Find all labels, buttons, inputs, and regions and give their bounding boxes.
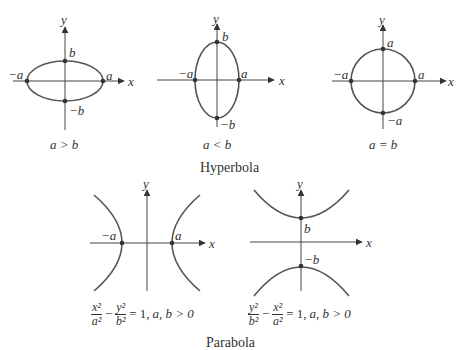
minus-sign: − — [262, 306, 269, 322]
y-axis-label: y — [143, 177, 149, 190]
hyperbola-vertical — [250, 190, 362, 296]
fraction-numerator: y² — [115, 301, 126, 315]
point-label-b: b — [222, 30, 229, 43]
point-label-a: a — [175, 229, 182, 242]
x-axis-label: x — [128, 75, 134, 88]
point-label-a: a — [106, 69, 113, 82]
point-label-a-top: a — [387, 36, 394, 49]
fraction-numerator: y² — [248, 301, 259, 315]
point-label-neg-a: −a — [178, 67, 193, 80]
ellipse-caption: a < b — [203, 138, 231, 151]
point-label-neg-a: −a — [101, 229, 116, 242]
section-title-parabola: Parabola — [206, 336, 255, 350]
point-label-b: b — [69, 46, 76, 59]
ellipse-a-lt-b — [157, 24, 274, 127]
point-label-neg-b: −b — [69, 104, 84, 117]
fraction-numerator: x² — [272, 301, 283, 315]
fraction-denominator: a² — [92, 315, 102, 328]
point-label-neg-b: −b — [304, 253, 319, 266]
y-axis-label: y — [379, 13, 385, 26]
point-label-neg-a: −a — [8, 68, 23, 81]
hyperbola-equation-vertical: y²b² − x²a² = 1, a, b > 0 — [248, 301, 351, 327]
point-label-a: a — [241, 67, 248, 80]
x-axis-label: x — [279, 74, 285, 87]
fraction-denominator: a² — [273, 315, 283, 328]
x-axis-label: x — [366, 236, 372, 249]
point-label-neg-a: −a — [333, 68, 348, 81]
condition: a, b > 0 — [153, 306, 194, 322]
point-label-neg-b: −b — [220, 118, 235, 131]
condition: a, b > 0 — [310, 306, 351, 322]
point-label-b: b — [304, 222, 311, 235]
fraction-denominator: b² — [116, 315, 126, 328]
section-title-hyperbola: Hyperbola — [200, 161, 259, 175]
hyperbola-equation-horizontal: x²a² − y²b² = 1, a, b > 0 — [91, 301, 194, 327]
equals-one: = 1, — [286, 306, 306, 322]
y-axis-label: y — [213, 12, 219, 25]
point-label-neg-a-bottom: −a — [387, 114, 402, 127]
equals-one: = 1, — [129, 306, 149, 322]
ellipse-caption: a > b — [50, 138, 78, 151]
y-axis-label: y — [61, 13, 67, 26]
minus-sign: − — [105, 306, 112, 322]
x-axis-label: x — [209, 237, 215, 250]
fraction-denominator: b² — [249, 315, 259, 328]
circle-caption: a = b — [369, 138, 397, 151]
y-axis-label: y — [297, 177, 303, 190]
point-label-a: a — [418, 68, 425, 81]
fraction-numerator: x² — [91, 301, 102, 315]
x-axis-label: x — [448, 75, 454, 88]
